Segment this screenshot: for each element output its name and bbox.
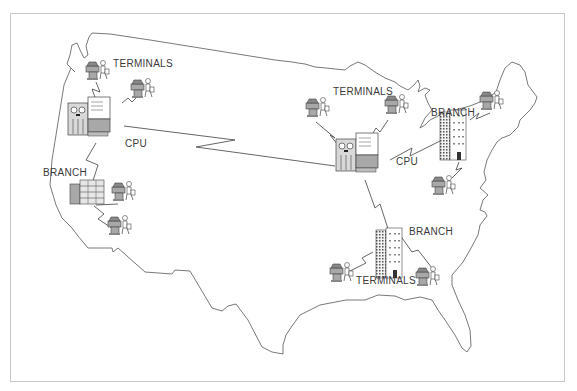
west-cpu-node xyxy=(68,97,110,136)
southeast-terminal-icon xyxy=(330,263,353,283)
network-map xyxy=(0,0,577,391)
east-terminal-icon xyxy=(385,95,408,115)
west-branch-terminal-icon xyxy=(108,216,131,236)
southeast-branch-label: BRANCH xyxy=(409,227,453,237)
west-terminals-label: TERMINALS xyxy=(113,59,173,69)
northeast-branch-label: BRANCH xyxy=(431,108,475,118)
east-cpu-label: CPU xyxy=(396,157,418,167)
southeast-branch-building-icon xyxy=(376,228,402,278)
west-terminal-icon xyxy=(86,61,109,81)
east-terminal-icon xyxy=(306,98,329,118)
northeast-terminal-icon xyxy=(480,91,503,111)
west-branch-label: BRANCH xyxy=(43,168,87,178)
southeast-terminal-icon xyxy=(416,267,439,287)
northeast-terminal-icon xyxy=(432,176,455,196)
link-lines xyxy=(86,82,490,272)
southeast-terminals-label: TERMINALS xyxy=(356,276,416,286)
west-branch-building-icon xyxy=(70,180,104,204)
west-terminal-icon xyxy=(131,79,154,99)
east-terminals-label: TERMINALS xyxy=(333,87,393,97)
west-branch-terminal-icon xyxy=(112,182,135,202)
east-cpu-node xyxy=(336,133,378,172)
west-cpu-label: CPU xyxy=(125,139,147,149)
